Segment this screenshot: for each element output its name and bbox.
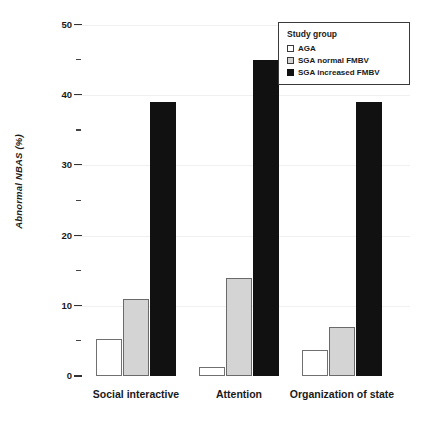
y-axis-tick-20: 20 — [28, 231, 72, 241]
x-axis-label-1: Social interactive — [93, 388, 179, 400]
bar[interactable] — [96, 339, 122, 376]
y-axis-tick-label: 10 — [61, 300, 72, 311]
bar[interactable] — [199, 367, 225, 376]
bar-chart-figure: Abnormal NBAS (%) 01020304050 Social int… — [0, 0, 424, 425]
legend-item-label: AGA — [298, 44, 316, 53]
bar[interactable] — [123, 299, 149, 376]
legend-item-label: SGA normal FMBV — [298, 56, 369, 65]
bar[interactable] — [253, 60, 279, 376]
y-axis-tick-40: 40 — [28, 90, 72, 100]
bar[interactable] — [356, 102, 382, 376]
y-axis-tick-label: 0 — [67, 370, 72, 381]
bar[interactable] — [302, 350, 328, 376]
y-axis-tick-50: 50 — [28, 20, 72, 30]
legend-title: Study group — [287, 29, 402, 39]
legend-box: Study group AGASGA normal FMBVSGA increa… — [278, 22, 410, 85]
x-axis-label-2: Attention — [216, 388, 262, 400]
legend-swatch-icon — [287, 57, 294, 64]
y-axis-tick-0: 0 — [28, 371, 72, 381]
y-axis-tick-30: 30 — [28, 160, 72, 170]
legend-item-black[interactable]: SGA increased FMBV — [287, 68, 402, 77]
y-axis-tick-label: 20 — [61, 230, 72, 241]
y-axis-title: Abnormal NBAS (%) — [13, 92, 24, 272]
legend-item-white[interactable]: AGA — [287, 44, 402, 53]
legend-swatch-icon — [287, 45, 294, 52]
x-axis-label-3: Organization of state — [290, 388, 394, 400]
y-axis-tick-label: 50 — [61, 19, 72, 30]
y-axis-tick-10: 10 — [28, 301, 72, 311]
bar[interactable] — [150, 102, 176, 376]
bar[interactable] — [329, 327, 355, 376]
bar[interactable] — [226, 278, 252, 376]
legend-item-list: AGASGA normal FMBVSGA increased FMBV — [287, 44, 402, 77]
legend-item-gray[interactable]: SGA normal FMBV — [287, 56, 402, 65]
bar-group-2 — [199, 25, 279, 376]
y-axis-tick-label: 30 — [61, 159, 72, 170]
legend-swatch-icon — [287, 69, 294, 76]
y-axis-tick-label: 40 — [61, 89, 72, 100]
legend-item-label: SGA increased FMBV — [298, 68, 380, 77]
bar-group-1 — [96, 25, 176, 376]
